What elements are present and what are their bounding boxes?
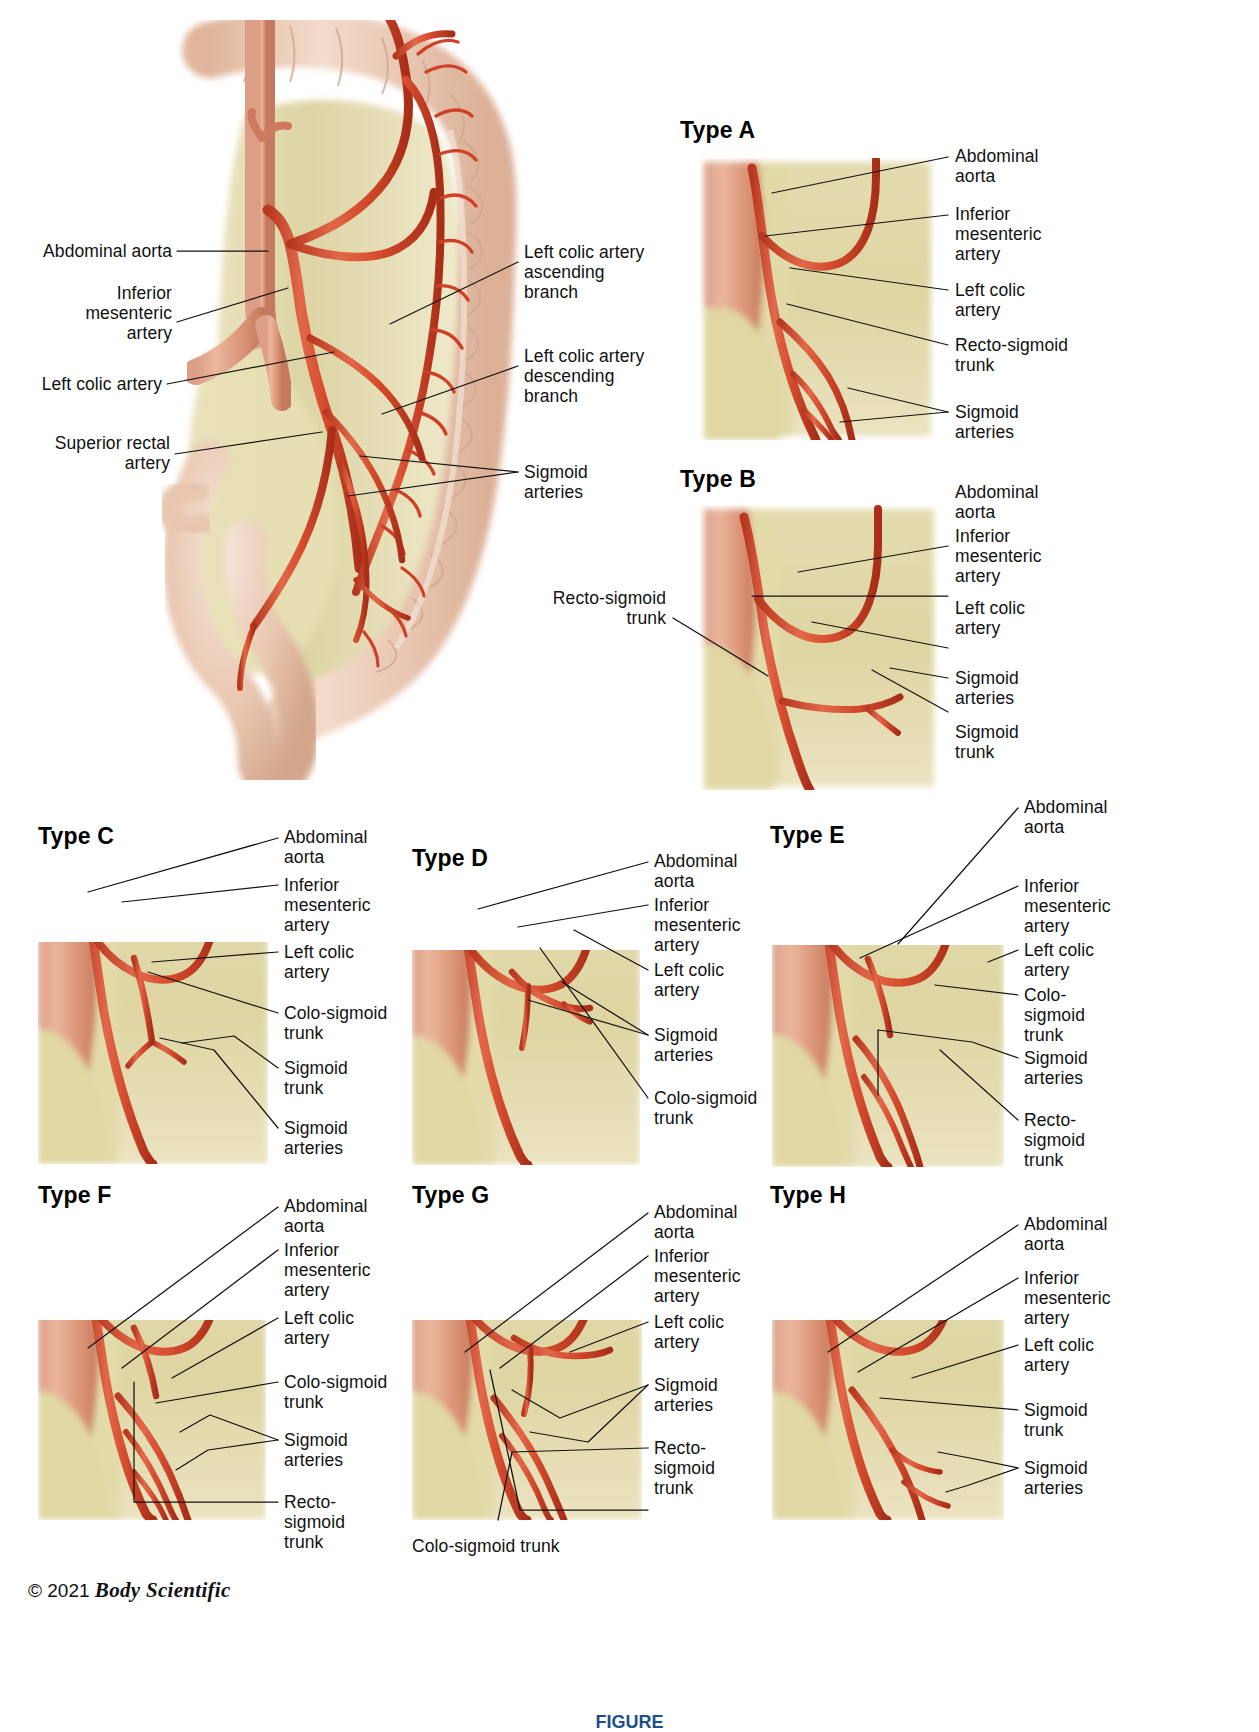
type-a-label-sigmoid-arteries: Sigmoid arteries	[955, 402, 1105, 442]
type-f-panel	[38, 1320, 266, 1520]
overview-label-abdominal-aorta: Abdominal aorta	[10, 241, 172, 261]
type-b-label-left-colic-artery: Left colic artery	[955, 598, 1105, 638]
copyright-symbol: ©	[28, 1580, 42, 1601]
copyright-brand: Body Scientific	[95, 1578, 231, 1602]
type-d-panel	[412, 950, 640, 1165]
overview-illustration	[150, 20, 550, 780]
type-a-label-left-colic-artery: Left colic artery	[955, 280, 1105, 320]
type-f-title: Type F	[38, 1182, 112, 1209]
type-h-title: Type H	[770, 1182, 846, 1209]
type-a-label-abdominal-aorta: Abdominal aorta	[955, 146, 1105, 186]
type-a-label-recto-sigmoid-trunk: Recto-sigmoid trunk	[955, 335, 1115, 375]
type-e-title: Type E	[770, 822, 845, 849]
type-h-label-left-colic-artery: Left colic artery	[1024, 1335, 1174, 1375]
type-d-label-abdominal-aorta: Abdominal aorta	[654, 851, 804, 891]
copyright-notice: © 2021 Body Scientific	[28, 1578, 231, 1603]
type-e-label-abdominal-aorta: Abdominal aorta	[1024, 797, 1174, 837]
overview-label-inferior-mesenteric-artery: Inferior mesenteric artery	[10, 283, 172, 343]
overview-label-left-colic-artery: Left colic artery	[10, 374, 162, 394]
type-h-label-sigmoid-arteries: Sigmoid arteries	[1024, 1458, 1174, 1498]
copyright-year: 2021	[47, 1580, 89, 1601]
type-b-label-abdominal-aorta: Abdominal aorta	[955, 482, 1105, 522]
type-a-panel	[700, 158, 935, 440]
type-g-title: Type G	[412, 1182, 489, 1209]
type-b-label-sigmoid-arteries: Sigmoid arteries	[955, 668, 1105, 708]
overview-label-sigmoid-arteries: Sigmoid arteries	[524, 462, 664, 502]
overview-label-superior-rectal-artery: Superior rectal artery	[10, 433, 170, 473]
overview-label-left-colic-ascending-branch: Left colic artery ascending branch	[524, 242, 684, 302]
type-e-label-left-colic-artery: Left colic artery	[1024, 940, 1174, 980]
overview-label-left-colic-descending-branch: Left colic artery descending branch	[524, 346, 684, 406]
type-e-label-inferior-mesenteric-artery: Inferior mesenteric artery	[1024, 876, 1174, 936]
type-a-title: Type A	[680, 117, 755, 144]
type-b-label-inferior-mesenteric-artery: Inferior mesenteric artery	[955, 526, 1105, 586]
type-f-label-inferior-mesenteric-artery: Inferior mesenteric artery	[284, 1240, 434, 1300]
type-b-panel	[700, 505, 938, 790]
type-b-label-sigmoid-trunk: Sigmoid trunk	[955, 722, 1105, 762]
type-e-label-colo-sigmoid-trunk: Colo- sigmoid trunk	[1024, 985, 1174, 1045]
type-h-label-inferior-mesenteric-artery: Inferior mesenteric artery	[1024, 1268, 1174, 1328]
type-e-panel	[772, 945, 1004, 1167]
type-c-label-inferior-mesenteric-artery: Inferior mesenteric artery	[284, 875, 434, 935]
type-h-panel	[772, 1320, 1004, 1520]
type-c-title: Type C	[38, 823, 114, 850]
type-e-label-recto-sigmoid-trunk: Recto- sigmoid trunk	[1024, 1110, 1174, 1170]
figure-caption: FIGURE	[0, 1712, 1259, 1732]
type-d-title: Type D	[412, 845, 488, 872]
type-h-label-abdominal-aorta: Abdominal aorta	[1024, 1214, 1174, 1254]
type-b-title: Type B	[680, 466, 756, 493]
type-g-label-colo-sigmoid-trunk: Colo-sigmoid trunk	[412, 1536, 642, 1556]
type-b-label-recto-sigmoid-trunk: Recto-sigmoid trunk	[500, 588, 666, 628]
type-c-panel	[38, 942, 268, 1164]
type-a-label-inferior-mesenteric-artery: Inferior mesenteric artery	[955, 204, 1105, 264]
type-e-label-sigmoid-arteries: Sigmoid arteries	[1024, 1048, 1174, 1088]
type-h-label-sigmoid-trunk: Sigmoid trunk	[1024, 1400, 1174, 1440]
type-g-panel	[412, 1320, 642, 1520]
type-g-label-inferior-mesenteric-artery: Inferior mesenteric artery	[654, 1246, 804, 1306]
